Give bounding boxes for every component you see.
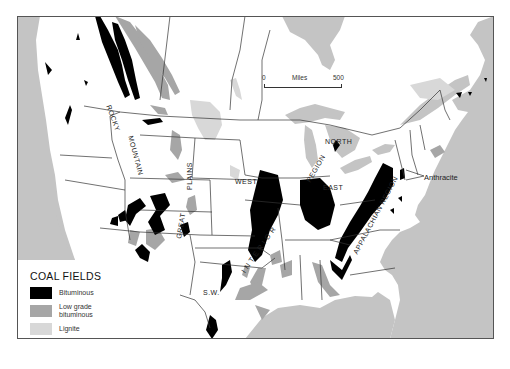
label-plains: PLAINS: [186, 162, 193, 190]
legend-label: Low grade: [59, 303, 93, 311]
label-southwest: S.W.: [203, 289, 220, 296]
lignite-swatch: [30, 323, 52, 335]
legend-item-bituminous: Bituminous: [30, 287, 101, 299]
scale-start: 0: [262, 74, 266, 81]
legend-label: Lignite: [59, 325, 80, 333]
legend-label: bituminous: [59, 311, 93, 319]
label-north: NORTH: [325, 138, 352, 145]
scale-end: 500: [333, 74, 344, 81]
legend-item-low-grade: Low grade bituminous: [30, 303, 101, 319]
scale-line: [264, 84, 342, 88]
label-east: EAST: [323, 184, 343, 191]
label-west: WEST: [235, 178, 257, 185]
legend-item-lignite: Lignite: [30, 323, 101, 335]
low-grade-swatch: [30, 305, 52, 317]
bituminous-swatch: [30, 287, 52, 299]
anthracite-pointer-icon: [404, 168, 426, 182]
legend-title: COAL FIELDS: [30, 270, 101, 282]
label-anthracite: Anthracite: [424, 173, 458, 182]
scale-unit: Miles: [292, 74, 307, 81]
legend-label: Bituminous: [59, 289, 94, 297]
legend: COAL FIELDS Bituminous Low grade bitumin…: [30, 270, 101, 339]
